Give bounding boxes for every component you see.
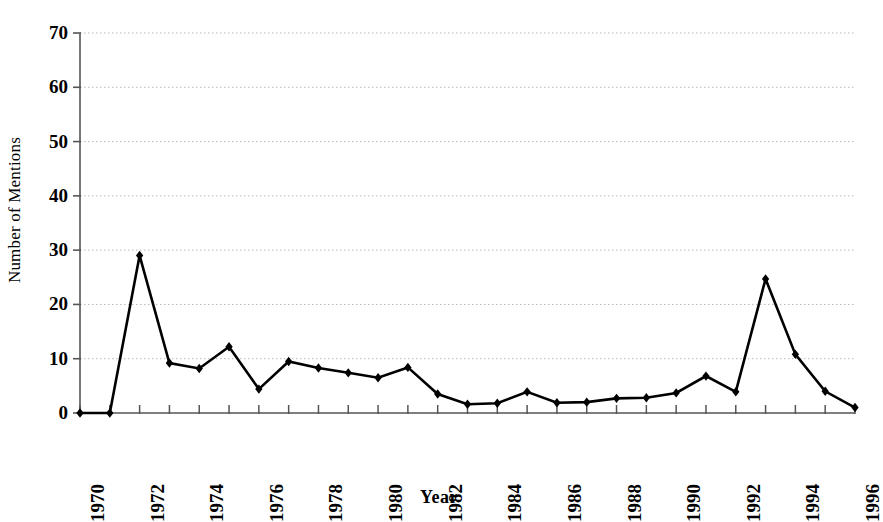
data-point-marker — [166, 358, 173, 367]
x-axis-tick-labels: 1970197219741976197819801982198419861988… — [0, 418, 878, 490]
data-point-marker — [345, 368, 352, 377]
data-point-marker — [553, 398, 560, 407]
data-point-marker — [136, 251, 143, 260]
axis-lines — [80, 33, 855, 413]
data-point-marker — [76, 408, 83, 417]
data-point-markers — [76, 251, 858, 418]
y-axis-tick-labels: 706050403020100 — [34, 0, 68, 430]
y-axis-tick-label: 20 — [34, 294, 68, 313]
y-axis-tick-label: 50 — [34, 132, 68, 151]
data-point-marker — [494, 399, 501, 408]
data-point-marker — [374, 373, 381, 382]
data-point-marker — [523, 387, 530, 396]
y-axis-tick-label: 70 — [34, 23, 68, 42]
plot-area — [80, 33, 855, 413]
y-axis-tick-label: 30 — [34, 240, 68, 259]
y-axis-tick-label: 60 — [34, 77, 68, 96]
data-point-marker — [106, 408, 113, 417]
data-point-marker — [672, 388, 679, 397]
y-axis-tick-label: 10 — [34, 349, 68, 368]
plot-svg — [80, 33, 855, 413]
y-axis-tick-label: 40 — [34, 186, 68, 205]
data-point-marker — [732, 387, 739, 396]
y-axis-title: Number of Mentions — [0, 0, 30, 420]
data-point-marker — [464, 400, 471, 409]
data-point-marker — [702, 371, 709, 380]
x-axis-title: Year — [0, 487, 878, 508]
gridlines — [80, 33, 855, 359]
data-point-marker — [851, 403, 858, 412]
data-line-series-0 — [80, 256, 855, 413]
data-point-marker — [613, 394, 620, 403]
data-point-marker — [643, 393, 650, 402]
data-point-marker — [583, 397, 590, 406]
data-point-marker — [315, 363, 322, 372]
y-axis-title-text: Number of Mentions — [5, 137, 25, 283]
